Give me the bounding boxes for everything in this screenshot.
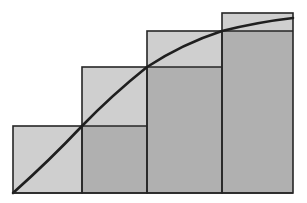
shaded-regions-layer <box>13 13 293 193</box>
bar-2-lower-dark-region <box>82 126 147 193</box>
bar-3-upper-light-region <box>147 31 222 67</box>
bar-4-lower-dark-region <box>222 31 293 193</box>
figure-canvas: Riemann sum step rectangles under a conc… <box>0 0 307 203</box>
bar-3-lower-dark-region <box>147 67 222 193</box>
riemann-sum-figure: Riemann sum step rectangles under a conc… <box>0 0 307 203</box>
